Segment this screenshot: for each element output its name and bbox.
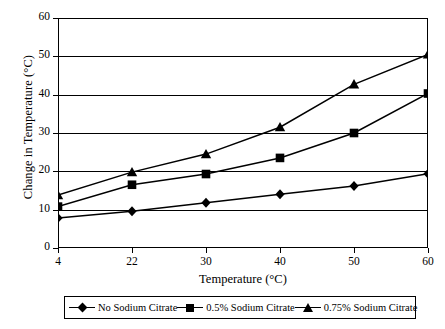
y-axis-tick-label: 10: [22, 202, 50, 214]
legend-marker-triangle-icon: [295, 303, 321, 313]
y-axis-tick-label: 30: [22, 125, 50, 137]
x-axis-tick: [132, 248, 133, 253]
series-line: [58, 174, 428, 218]
chart-legend: No Sodium Citrate0.5% Sodium Citrate0.75…: [64, 296, 416, 319]
legend-item-2[interactable]: 0.75% Sodium Citrate: [295, 302, 418, 313]
data-point-diamond: [275, 189, 284, 199]
y-axis-tick-label: 20: [22, 163, 50, 175]
legend-label: 0.75% Sodium Citrate: [324, 302, 418, 313]
data-point-triangle: [275, 122, 285, 131]
y-axis-tick-label: 50: [22, 48, 50, 60]
x-axis-tick: [58, 248, 59, 253]
line-chart: Change in Temperature (°C) 0102030405060…: [0, 0, 445, 329]
y-axis-tick-label: 40: [22, 87, 50, 99]
legend-marker-square-icon: [177, 303, 203, 313]
data-point-square: [424, 89, 428, 98]
data-point-triangle: [423, 49, 428, 58]
x-axis-tick-label: 60: [413, 255, 443, 267]
data-point-diamond: [58, 213, 63, 223]
data-point-diamond: [423, 169, 428, 179]
data-point-square: [58, 202, 62, 211]
data-point-diamond: [201, 198, 210, 208]
x-axis-tick-label: 4: [43, 255, 73, 267]
data-point-square: [128, 180, 137, 189]
data-point-square: [350, 129, 359, 138]
y-axis-tick-label: 60: [22, 10, 50, 22]
x-axis-tick-label: 50: [339, 255, 369, 267]
x-axis-tick-label: 22: [117, 255, 147, 267]
x-axis-title: Temperature (°C): [58, 272, 428, 287]
legend-item-0[interactable]: No Sodium Citrate: [69, 302, 177, 313]
x-axis-tick: [280, 248, 281, 253]
legend-label: 0.5% Sodium Citrate: [206, 302, 294, 313]
data-point-square: [276, 154, 285, 163]
series-line: [58, 54, 428, 195]
x-axis-tick: [354, 248, 355, 253]
series-line: [58, 94, 428, 207]
legend-marker-diamond-icon: [69, 303, 95, 313]
data-point-diamond: [349, 181, 358, 191]
plot-area: [58, 18, 428, 248]
series-layer: [58, 18, 428, 248]
data-point-square: [202, 170, 211, 179]
x-axis-tick-label: 30: [191, 255, 221, 267]
legend-label: No Sodium Citrate: [98, 302, 177, 313]
x-axis-tick: [206, 248, 207, 253]
x-axis-tick: [428, 248, 429, 253]
x-axis-tick-label: 40: [265, 255, 295, 267]
legend-item-1[interactable]: 0.5% Sodium Citrate: [177, 302, 294, 313]
data-point-triangle: [349, 79, 359, 88]
data-point-diamond: [127, 206, 136, 216]
y-axis-tick-label: 0: [22, 240, 50, 252]
